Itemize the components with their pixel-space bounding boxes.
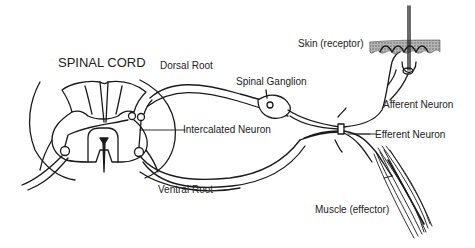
motor-neuron-right xyxy=(135,148,144,157)
skin-label: Skin (receptor) xyxy=(298,39,364,49)
afferent-neuron-label: Afferent Neuron xyxy=(383,100,453,110)
dorsal-root-label: Dorsal Root xyxy=(160,61,213,71)
muscle-label: Muscle (effector) xyxy=(315,205,389,215)
efferent-neuron-label: Efferent Neuron xyxy=(375,130,445,140)
motor-neuron-left xyxy=(61,147,70,156)
spinal-cord-title: SPINAL CORD xyxy=(58,56,146,69)
ventral-root-label: Ventral Root xyxy=(158,185,213,195)
spinal-ganglion-label: Spinal Ganglion xyxy=(236,77,307,87)
intercalated-neuron-label: Intercalated Neuron xyxy=(183,125,271,135)
muscle-effector xyxy=(374,146,432,238)
skin-receptor xyxy=(370,6,440,73)
intercalated-neuron-1 xyxy=(129,113,136,120)
spinal-nerve xyxy=(288,108,346,152)
intercalated-neuron-2 xyxy=(138,114,145,121)
spinal-ganglion xyxy=(258,90,290,118)
